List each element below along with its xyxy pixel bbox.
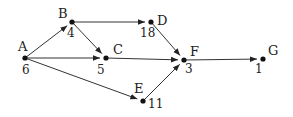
node-dot (140, 98, 145, 103)
node-label: E (134, 81, 144, 96)
node-weight: 5 (97, 63, 105, 77)
edge-a-b (25, 26, 67, 58)
node-weight: 18 (140, 26, 155, 40)
edge-b-c (72, 22, 102, 54)
node-label: F (190, 44, 199, 59)
node-label: C (113, 42, 123, 57)
node-weight: 4 (67, 26, 75, 40)
node-c: C5 (97, 42, 123, 77)
node-label: D (157, 13, 167, 28)
node-weight: 6 (22, 63, 30, 77)
node-dot (260, 56, 265, 61)
graph-canvas: A6B4C5D18E11F3G1 (0, 0, 293, 117)
edge-e-f (143, 64, 180, 101)
node-dot (148, 19, 153, 24)
node-label: B (58, 6, 68, 21)
node-dot (103, 55, 108, 60)
edge-f-g (184, 59, 257, 60)
node-label: A (17, 39, 28, 54)
node-b: B4 (58, 6, 75, 40)
node-dot (69, 19, 74, 24)
node-weight: 3 (185, 62, 193, 76)
node-g: G1 (255, 43, 278, 76)
edge-a-e (25, 58, 137, 99)
edge-c-f (106, 58, 178, 60)
node-label: G (268, 43, 278, 58)
node-weight: 11 (148, 97, 163, 111)
node-dot (22, 55, 27, 60)
node-weight: 1 (255, 62, 263, 76)
